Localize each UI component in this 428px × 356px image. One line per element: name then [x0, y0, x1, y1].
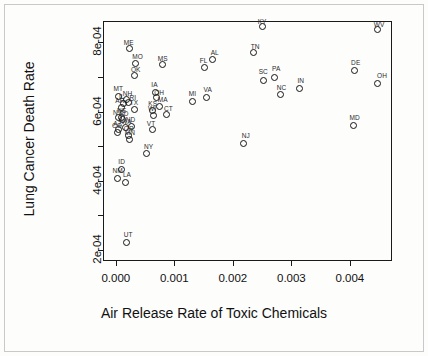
data-point-label: NC [277, 84, 287, 91]
data-point-label: WI [148, 105, 156, 112]
plot-data-area: KYWVMETNALMOMSFLDEOKPASCOHINIANCMTVAOHMI… [103, 21, 392, 261]
x-tick-mark [116, 261, 117, 266]
data-point [159, 61, 166, 68]
data-point-label: SC [259, 68, 268, 75]
data-point [131, 106, 138, 113]
data-point [163, 111, 170, 118]
data-point [149, 126, 156, 133]
data-point-label: MN [125, 129, 135, 136]
data-point-label: ID [118, 158, 125, 165]
data-point-label: IN [297, 77, 304, 84]
y-tick-label: 4e-04 [91, 159, 103, 201]
data-point [123, 239, 130, 246]
data-point [114, 175, 121, 182]
data-point-label: MD [349, 114, 359, 121]
data-point-label: WV [374, 21, 385, 28]
data-point-label: NM [112, 167, 122, 174]
data-point-label: WA [121, 118, 131, 125]
data-point [260, 77, 267, 84]
data-point-label: ME [124, 39, 134, 46]
x-tick-mark [350, 261, 351, 266]
data-point [131, 72, 138, 79]
x-tick-label: 0.004 [335, 272, 364, 284]
x-tick-label: 0.003 [277, 272, 306, 284]
data-point-label: OK [131, 66, 141, 73]
data-point [271, 74, 278, 81]
data-point [114, 129, 121, 136]
data-point-label: KY [258, 18, 267, 25]
data-point [150, 112, 157, 119]
data-point-label: IA [151, 81, 157, 88]
data-point-label: FL [200, 57, 208, 64]
data-point-label: NJ [242, 132, 250, 139]
data-point-label: MT [113, 85, 123, 92]
data-point [350, 122, 357, 129]
x-tick-mark [174, 261, 175, 266]
data-point [203, 94, 210, 101]
data-point-label: MA [158, 96, 168, 103]
x-tick-mark [233, 261, 234, 266]
data-point [209, 56, 216, 63]
data-point-label: AL [211, 49, 219, 56]
data-point-label: PA [272, 65, 280, 72]
data-point-label: LA [123, 171, 131, 178]
data-point-label: TN [251, 43, 260, 50]
x-tick-mark [291, 261, 292, 266]
data-point [296, 85, 303, 92]
scatter-plot-figure: Lung Cancer Death Rate 2e-044e-046e-048e… [0, 0, 428, 356]
x-tick-label: 0.001 [160, 272, 189, 284]
data-point-label: MO [132, 53, 143, 60]
data-point [351, 67, 358, 74]
x-tick-label: 0.000 [101, 272, 130, 284]
data-point-label: DE [351, 59, 360, 66]
data-point [201, 64, 208, 71]
data-point-label: CT [164, 105, 173, 112]
data-point [277, 91, 284, 98]
data-point [156, 103, 163, 110]
x-axis-title: Air Release Rate of Toxic Chemicals [0, 305, 428, 321]
y-tick-label: 2e-04 [91, 228, 103, 270]
data-point [143, 150, 150, 157]
data-point-label: OH [377, 72, 387, 79]
data-point [240, 140, 247, 147]
y-axis-title: Lung Cancer Death Rate [21, 19, 37, 259]
data-point [189, 98, 196, 105]
data-point-label: VT [147, 120, 156, 127]
data-point-label: AR [115, 97, 124, 104]
data-point-label: MI [189, 90, 196, 97]
y-tick-label: 8e-04 [91, 20, 103, 62]
y-tick-label: 6e-04 [91, 90, 103, 132]
data-point-label: UT [124, 231, 133, 238]
data-point-label: TX [130, 99, 139, 106]
data-point [374, 80, 381, 87]
data-point [126, 136, 133, 143]
x-tick-label: 0.002 [218, 272, 247, 284]
data-point-label: MS [158, 55, 168, 62]
data-point-label: VA [204, 86, 212, 93]
data-point-label: NY [144, 143, 153, 150]
data-point [122, 179, 129, 186]
data-point-label: CO [112, 122, 122, 129]
